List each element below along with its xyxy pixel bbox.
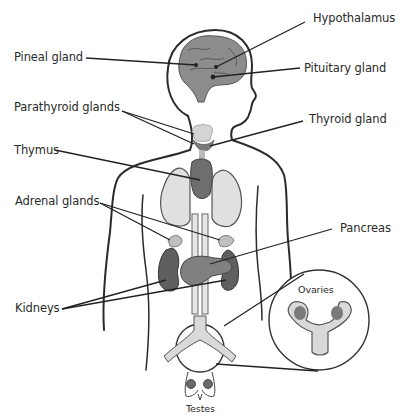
kidney-left xyxy=(158,248,178,291)
label-pituitary-gland: Pituitary gland xyxy=(304,63,386,75)
label-thymus: Thymus xyxy=(14,145,59,157)
thyroid-area xyxy=(192,124,214,160)
label-parathyroid-glands: Parathyroid glands xyxy=(14,102,120,114)
label-adrenal-glands: Adrenal glands xyxy=(15,196,99,208)
adrenal-gland-left xyxy=(168,236,182,247)
label-thyroid-gland: Thyroid gland xyxy=(309,114,387,126)
label-pancreas: Pancreas xyxy=(340,223,391,235)
label-hypothalamus: Hypothalamus xyxy=(313,13,395,25)
label-pineal-gland: Pineal gland xyxy=(14,52,83,64)
label-testes: Testes xyxy=(186,404,215,414)
label-kidneys: Kidneys xyxy=(15,303,60,315)
testis-left xyxy=(187,380,196,389)
reproductive-area xyxy=(164,316,236,400)
endocrine-diagram: Hypothalamus Pineal gland Pituitary glan… xyxy=(0,0,401,418)
adrenal-gland-right xyxy=(218,236,234,247)
label-ovaries: Ovaries xyxy=(298,285,334,295)
testis-right xyxy=(204,380,213,389)
brain xyxy=(179,36,247,102)
